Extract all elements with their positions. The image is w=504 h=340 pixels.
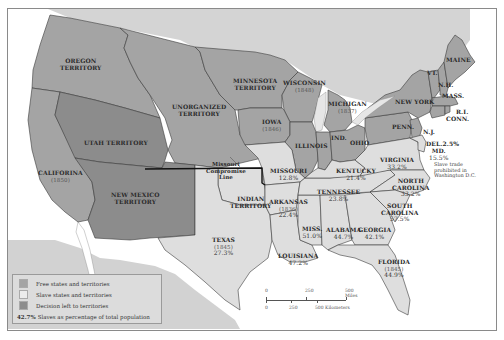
label-tennessee: TENNESSEE23.8% <box>317 189 360 202</box>
rhode-island <box>445 106 450 114</box>
scale-line <box>266 300 346 301</box>
label-ohio: OHIO <box>350 140 369 147</box>
label-maryland: MD.15.5% <box>429 148 449 161</box>
legend-label-free: Free states and territories <box>36 281 110 287</box>
label-arkansas: ARKANSAS(1836)22.4% <box>269 199 308 219</box>
label-south-carolina: SOUTHCAROLINA57.5% <box>381 203 419 223</box>
label-mississippi: MISS.51.0% <box>302 226 322 239</box>
label-missouri: MISSOURI12.8% <box>270 168 307 181</box>
label-illinois: ILLINOIS <box>295 143 328 150</box>
scale-km-250: 250 <box>289 305 298 310</box>
label-penn: PENN. <box>392 124 414 131</box>
label-oregon-territory: OREGONTERRITORY <box>60 58 102 71</box>
connecticut <box>430 106 445 118</box>
legend-pct-example: 42.7% <box>17 314 36 320</box>
legend-item-free: Free states and territories <box>19 279 110 288</box>
label-alabama: ALABAMA44.7% <box>326 227 361 240</box>
label-new-jersey: N.J. <box>423 129 435 136</box>
label-massachusetts: MASS. <box>442 93 464 100</box>
legend-swatch-decision <box>19 301 28 310</box>
label-georgia: GEORGIA42.1% <box>358 227 391 240</box>
label-new-york: NEW YORK <box>395 99 434 106</box>
label-unorganized-territory: UNORGANIZEDTERRITORY <box>172 104 226 117</box>
label-louisiana: LOUISIANA47.2% <box>278 253 318 266</box>
map-legend: Free states and territories Slave states… <box>12 274 162 324</box>
legend-pct-label: Slaves as percentage of total population <box>38 314 150 320</box>
legend-swatch-free <box>19 279 28 288</box>
scale-bar: 0 250 500 Miles 0 250 500 Kilometers <box>265 288 355 318</box>
label-iowa: IOWA(1846) <box>262 119 281 132</box>
label-connecticut: CONN. <box>446 116 469 123</box>
label-missouri-compromise-line: MissouriCompromiseLine <box>206 161 246 181</box>
label-maine: MAINE <box>446 57 471 64</box>
legend-item-percentage: 42.7% Slaves as percentage of total popu… <box>17 312 150 321</box>
legend-item-slave: Slave states and territories <box>19 290 112 299</box>
label-virginia: VIRGINIA33.2% <box>380 157 414 170</box>
legend-label-decision: Decision left to territories <box>36 303 108 309</box>
label-michigan: MICHIGAN(1837) <box>328 101 367 114</box>
label-indiana: IND. <box>331 135 347 142</box>
label-florida: FLORIDA(1845)44.9% <box>378 259 410 279</box>
scale-miles-0: 0 <box>265 288 268 293</box>
scale-km-0: 0 <box>265 305 268 310</box>
label-minnesota-territory: MINNESOTATERRITORY <box>233 78 277 91</box>
legend-label-slave: Slave states and territories <box>36 292 112 298</box>
label-indian-territory: INDIANTERRITORY <box>230 196 272 209</box>
label-utah-territory: UTAH TERRITORY <box>84 140 148 147</box>
label-texas: TEXAS(1845)27.3% <box>212 237 235 257</box>
label-new-mexico-territory: NEW MEXICOTERRITORY <box>111 192 160 205</box>
label-new-hampshire: N.H. <box>438 82 453 89</box>
label-north-carolina: NORTHCAROLINA33.2% <box>392 178 430 198</box>
legend-swatch-slave <box>19 290 28 299</box>
scale-miles-250: 250 <box>305 288 314 293</box>
scale-km-500: 500 Kilometers <box>315 305 350 310</box>
label-kentucky: KENTUCKY21.4% <box>336 168 376 181</box>
note-dc-slave-trade: Slave tradeprohibited inWashington D.C. <box>434 162 476 179</box>
label-wisconsin: WISCONSIN(1848) <box>283 80 326 93</box>
legend-item-decision: Decision left to territories <box>19 301 108 310</box>
label-california: CALIFORINA(1850) <box>38 170 83 183</box>
label-vermont: VT. <box>427 70 438 77</box>
